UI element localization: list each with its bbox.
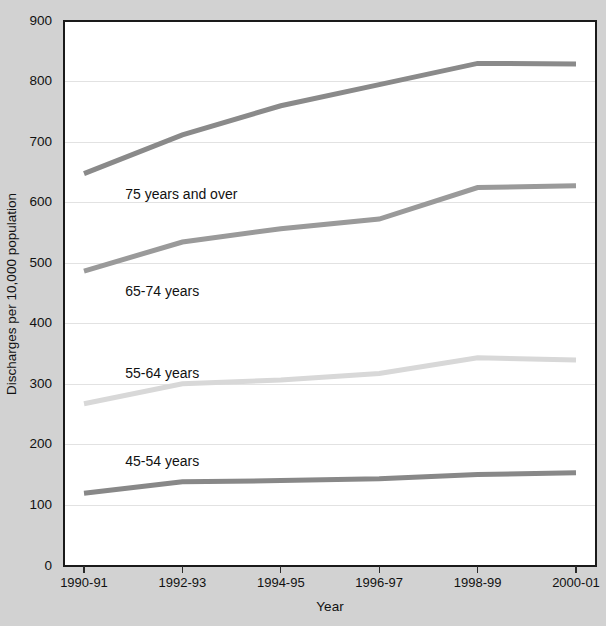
- x-axis-title: Year: [316, 599, 344, 614]
- y-tick-label-500: 500: [29, 255, 52, 270]
- x-tick-label-2000-01: 2000-01: [552, 575, 600, 590]
- y-tick-label-100: 100: [29, 497, 52, 512]
- y-tick-label-400: 400: [29, 315, 52, 330]
- series-label-55-64-years: 55-64 years: [125, 365, 199, 381]
- x-tick-label-1998-99: 1998-99: [454, 575, 502, 590]
- y-axis-title: Discharges per 10,000 population: [4, 193, 19, 395]
- chart-canvas: 0100200300400500600700800900 1990-911992…: [0, 0, 606, 626]
- series-label-65-74-years: 65-74 years: [125, 283, 199, 299]
- y-tick-label-600: 600: [29, 194, 52, 209]
- x-tick-label-1994-95: 1994-95: [257, 575, 305, 590]
- y-tick-label-700: 700: [29, 134, 52, 149]
- y-tick-label-900: 900: [29, 13, 52, 28]
- y-tick-label-200: 200: [29, 436, 52, 451]
- y-tick-label-800: 800: [29, 73, 52, 88]
- line-chart-figure: 0100200300400500600700800900 1990-911992…: [0, 0, 606, 626]
- series-label-45-54-years: 45-54 years: [125, 453, 199, 469]
- x-tick-label-1996-97: 1996-97: [355, 575, 403, 590]
- x-tick-label-1992-93: 1992-93: [159, 575, 207, 590]
- y-tick-label-0: 0: [44, 558, 52, 573]
- series-label-75-years-and-over: 75 years and over: [125, 186, 237, 202]
- x-tick-label-1990-91: 1990-91: [60, 575, 108, 590]
- y-tick-label-300: 300: [29, 376, 52, 391]
